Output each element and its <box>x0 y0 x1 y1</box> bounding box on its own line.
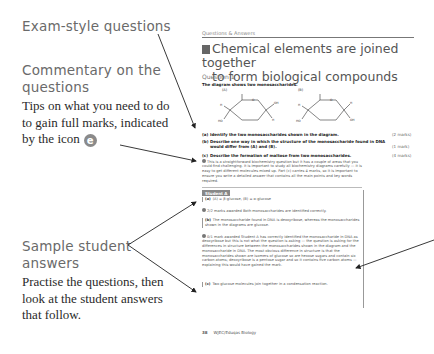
commentary-text: This is a straightforward biochemistry q… <box>202 159 362 183</box>
svg-text:HO: HO <box>296 119 301 123</box>
commentary-body-line3: by the icone <box>22 131 170 148</box>
page-footer: 38WJEC/Eduqas Biology <box>202 330 256 335</box>
subquestion-c: (c) Describe the formation of maltose fr… <box>202 153 414 158</box>
answer-label: (b) <box>205 218 211 222</box>
answer-b-feedback: 0/1 mark awarded Student A has correctly… <box>202 234 360 268</box>
answer-text: Two glucose molecules join together in a… <box>212 282 327 286</box>
exam-style-heading: Exam-style questions <box>22 18 171 35</box>
subquestion-a: (a) Identify the two monosaccharides sho… <box>202 132 414 137</box>
e-icon <box>202 234 206 238</box>
title-square-icon <box>202 45 210 54</box>
answer-c: (c)Two glucose molecules join together i… <box>202 282 360 287</box>
answer-a-feedback: 2/2 marks awarded Both monosaccharides a… <box>202 208 360 213</box>
commentary-body-line2: to gain full marks, indicated <box>22 115 170 132</box>
sample-heading-line1: Sample student <box>22 238 131 255</box>
answer-label: (c) <box>205 282 210 286</box>
svg-text:H: H <box>350 101 352 105</box>
svg-text:OH: OH <box>350 118 355 122</box>
subquestion-label: (b) <box>202 139 210 149</box>
feedback-text: 0/1 mark awarded Student A has correctly… <box>202 235 359 268</box>
e-icon <box>202 159 206 163</box>
subquestion-text: Describe the formation of maltose from t… <box>210 153 392 158</box>
page-title-line1-text: Chemical elements are joined together <box>202 41 398 70</box>
subquestion-text: Identify the two monosaccharides shown i… <box>210 132 392 137</box>
subquestion-marks: (2 marks) <box>392 132 414 137</box>
commentary-text-body: This is a straightforward biochemistry q… <box>202 160 362 183</box>
sample-body-line1: Practise the questions, then <box>22 274 164 291</box>
subquestion-text: Describe one way in which the structure … <box>210 139 392 149</box>
svg-text:H: H <box>298 103 300 107</box>
answer-b: (b)The monosaccharide found in DNA is de… <box>202 218 360 228</box>
subquestion-label: (c) <box>202 153 210 158</box>
diagram-label-b: (B) <box>298 88 304 92</box>
commentary-body-line3-text: by the icon <box>22 131 80 146</box>
subquestion-b: (b) Describe one way in which the struct… <box>202 139 414 149</box>
sample-heading-line2: answers <box>22 255 131 272</box>
commentary-heading-line1: Commentary on the <box>22 62 161 79</box>
svg-text:HO: HO <box>218 119 223 123</box>
answer-label: (a) <box>205 197 211 201</box>
svg-text:OH: OH <box>274 101 279 105</box>
sample-body-line2: look at the student answers <box>22 291 164 308</box>
feedback-text: 2/2 marks awarded Both monosaccharides a… <box>207 209 326 213</box>
monosaccharide-diagram: (A) (B) OOHH HOH OHH HOOH <box>208 86 388 130</box>
subquestion-marks: (1 mark) <box>392 139 414 149</box>
diagram-label-a: (A) <box>222 88 228 92</box>
sample-answers-heading: Sample student answers <box>22 238 131 272</box>
page-number: 38 <box>202 330 208 335</box>
arrow-sample-to-box <box>128 202 196 245</box>
sample-body-line3: that follow. <box>22 307 164 324</box>
subquestion-label: (a) <box>202 132 210 137</box>
page-title-line1: Chemical elements are joined together <box>202 42 414 70</box>
footer-text: WJEC/Eduqas Biology <box>214 330 257 335</box>
commentary-body: Tips on what you need to do to gain full… <box>22 98 170 148</box>
commentary-body-line1: Tips on what you need to do <box>22 98 170 115</box>
answer-text: (A) = β-glucose, (B) = α-glucose <box>213 197 271 201</box>
sample-answers-body: Practise the questions, then look at the… <box>22 274 164 324</box>
question-label: Question 1 <box>202 73 235 80</box>
commentary-heading: Commentary on the questions <box>22 62 161 96</box>
e-icon: e <box>84 134 97 147</box>
svg-text:H: H <box>220 103 222 107</box>
svg-text:H: H <box>272 118 274 122</box>
subquestion-marks: (4 marks) <box>392 153 414 158</box>
answer-text: The monosaccharide found in DNA is deoxy… <box>205 218 359 227</box>
commentary-heading-line2: questions <box>22 79 161 96</box>
e-icon <box>202 208 206 212</box>
answer-a: (a)(A) = β-glucose, (B) = α-glucose <box>202 197 360 202</box>
book-page-thumbnail: Questions & Answers Chemical elements ar… <box>200 20 422 354</box>
divider <box>202 187 362 188</box>
student-tag: Student A <box>202 190 230 196</box>
running-head: Questions & Answers <box>202 30 414 38</box>
